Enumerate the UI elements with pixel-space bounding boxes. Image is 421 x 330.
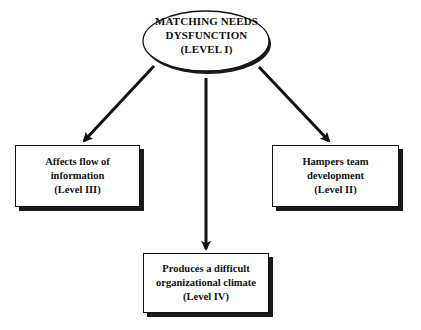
node-line: (Level II) [314,183,356,197]
root-line-2: DYSFUNCTION [143,28,270,42]
arrow-to-right [259,67,329,141]
node-line: information [51,169,105,183]
node-line: (Level IV) [183,290,229,304]
node-affects-flow-of-information: Affects flow of information (Level III) [15,145,140,207]
node-line: (Level III) [54,183,100,197]
node-hampers-team-development: Hampers team development (Level II) [272,145,399,207]
root-node-label: MATCHING NEEDS DYSFUNCTION (LEVEL I) [143,14,270,56]
node-line: Affects flow of [45,155,110,169]
root-line-3: (LEVEL I) [143,42,270,56]
node-difficult-organizational-climate: Produces a difficult organizational clim… [143,253,269,313]
node-line: organizational climate [156,276,256,290]
node-line: development [307,169,364,183]
node-line: Produces a difficult [162,262,249,276]
arrow-to-left [84,66,154,141]
node-line: Hampers team [302,155,368,169]
root-line-1: MATCHING NEEDS [143,14,270,28]
